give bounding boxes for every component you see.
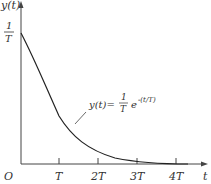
x-axis-arrow-icon [201,162,208,167]
x-tick-label-3T: 3T [130,170,146,183]
svg-text:e: e [131,99,137,110]
svg-text:-(t/T): -(t/T) [138,96,156,104]
y-axis-label: y(t) [0,0,20,12]
x-tick-label-2T: 2T [90,170,107,183]
x-tick-label-T: T [55,170,64,183]
exponential-decay-chart: y(t) 1 T O T 2T 3T 4T t y(t)= 1 T e -(t/… [0,0,211,184]
equation-annotation: y(t)= 1 T e -(t/T) [88,92,156,114]
y-tick-numerator: 1 [6,20,12,31]
x-tick-label-4T: 4T [168,170,185,183]
svg-text:T: T [120,104,127,114]
svg-text:y(t)=: y(t)= [88,99,115,110]
svg-text:1: 1 [121,92,127,102]
y-tick-denominator: T [5,33,13,44]
annotation-leader [75,112,86,124]
origin-label: O [4,170,13,183]
x-axis-label: t [203,170,208,183]
